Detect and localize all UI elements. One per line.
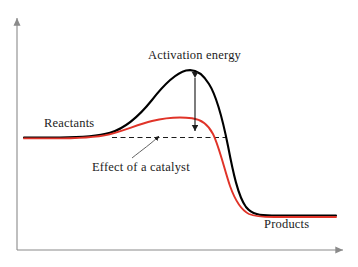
activation-energy-label: Activation energy — [148, 48, 241, 63]
reactants-label: Reactants — [44, 116, 94, 131]
catalyst-leader-line — [132, 136, 159, 158]
products-label: Products — [264, 217, 309, 232]
energy-profile-diagram: Activation energy Reactants Effect of a … — [0, 0, 358, 267]
effect-of-catalyst-label: Effect of a catalyst — [92, 160, 190, 175]
uncatalysed-reaction-curve — [24, 70, 336, 215]
